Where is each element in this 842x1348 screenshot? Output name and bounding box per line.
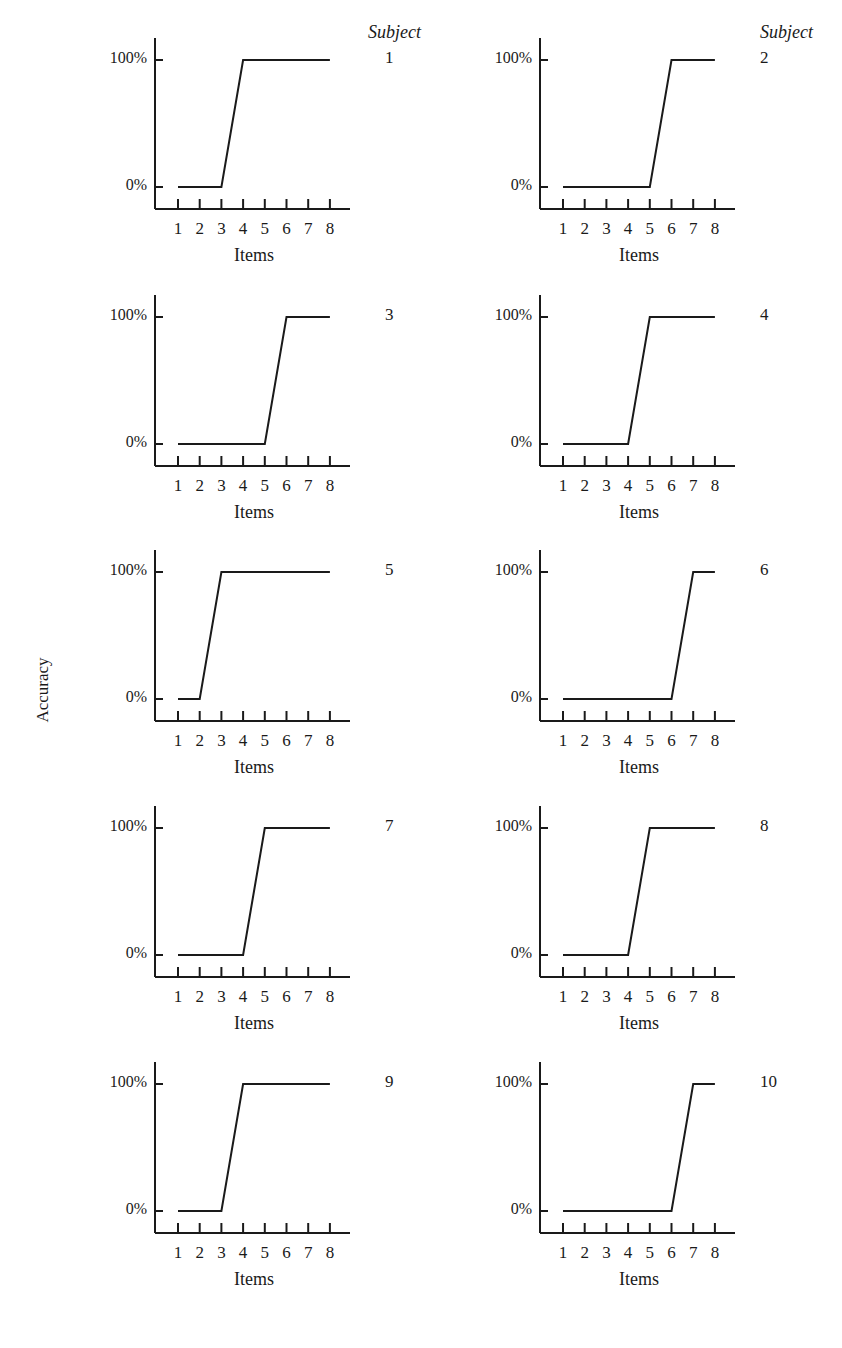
x-tick-label: 8 [705, 1243, 725, 1263]
x-tick-label: 7 [683, 1243, 703, 1263]
accuracy-line [563, 1084, 715, 1211]
y-tick-label-0: 0% [472, 1200, 532, 1218]
x-tick-label: 4 [618, 1243, 638, 1263]
y-tick-label-100: 100% [472, 1073, 532, 1091]
x-tick-label: 5 [640, 1243, 660, 1263]
x-tick-label: 2 [575, 1243, 595, 1263]
x-tick-label: 6 [662, 1243, 682, 1263]
x-axis-title: Items [579, 1269, 699, 1290]
x-tick-label: 3 [596, 1243, 616, 1263]
subject-number: 10 [760, 1072, 777, 1092]
x-tick-label: 1 [553, 1243, 573, 1263]
panel-plot [0, 0, 842, 1348]
